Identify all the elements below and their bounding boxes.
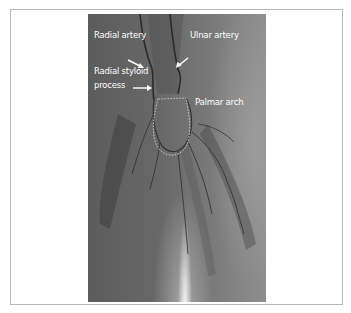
angiogram-overlay [88, 14, 266, 302]
label-ulnar-artery: Ulnar artery [190, 30, 239, 41]
label-radial-artery: Radial artery [94, 30, 146, 41]
label-palmar-arch: Palmar arch [195, 97, 243, 108]
label-radial-styloid-line2: process [94, 80, 125, 91]
label-radial-styloid-line1: Radial styloid [94, 66, 148, 77]
angiogram-image [88, 14, 266, 302]
